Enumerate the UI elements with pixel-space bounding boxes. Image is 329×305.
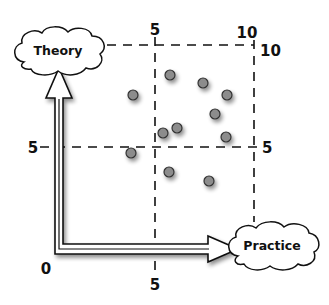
practice-cloud: Practice xyxy=(229,222,319,270)
label-y-mid-left: 5 xyxy=(28,139,38,157)
data-point xyxy=(222,90,232,100)
label-x-mid-bottom: 5 xyxy=(150,276,160,294)
data-point xyxy=(172,123,182,133)
theory-practice-diagram: 5 10 10 5 5 0 5 Theory Practice xyxy=(0,0,329,305)
data-point xyxy=(198,78,208,88)
label-y-mid-right: 5 xyxy=(262,139,272,157)
theory-cloud: Theory xyxy=(15,27,104,75)
theory-label: Theory xyxy=(34,43,83,58)
axes-arrow xyxy=(46,68,238,262)
l-arrow-outline xyxy=(46,68,238,262)
l-arrow-inner-line xyxy=(59,99,209,249)
label-y-max-right: 10 xyxy=(260,42,281,60)
data-point xyxy=(164,167,174,177)
data-point xyxy=(210,109,220,119)
data-points xyxy=(126,70,232,186)
data-point xyxy=(165,70,175,80)
data-point xyxy=(126,148,136,158)
label-x-max-top: 10 xyxy=(237,24,258,42)
label-x-mid-top: 5 xyxy=(150,21,160,39)
data-point xyxy=(128,90,138,100)
data-point xyxy=(221,132,231,142)
practice-label: Practice xyxy=(243,238,300,253)
label-origin: 0 xyxy=(41,260,51,278)
data-point xyxy=(158,128,168,138)
data-point xyxy=(204,176,214,186)
